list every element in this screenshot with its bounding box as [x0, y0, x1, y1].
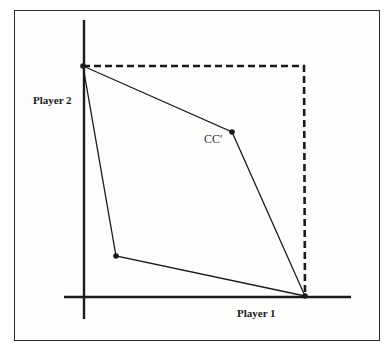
- vertex-bottom-right: [302, 293, 308, 299]
- cc-prime-label: CC′: [204, 132, 223, 147]
- vertex-bottom-left: [113, 253, 119, 259]
- x-axis-label: Player 1: [237, 307, 276, 319]
- feasible-set-polygon: [83, 66, 305, 296]
- payoff-diagram: [0, 0, 392, 350]
- dashed-bound: [83, 66, 305, 296]
- vertex-top-left: [80, 63, 86, 69]
- y-axis-label: Player 2: [33, 94, 72, 106]
- vertex-cc-prime: [229, 129, 235, 135]
